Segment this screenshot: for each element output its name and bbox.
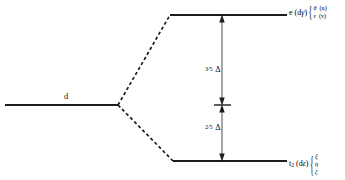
upper-component-alt-v: (v) <box>319 12 326 19</box>
crystal-field-splitting-diagram: d 3⁄5Δ 2⁄5Δ e (dγ) { θ(u) ε(v) t2 (dε) {… <box>0 0 345 180</box>
lower-level-component-row: ξ <box>315 152 321 160</box>
upper-component-symbol-epsilon: ε <box>313 12 315 19</box>
upper-level-brace: { <box>309 3 313 21</box>
lower-splitting-denominator: 5 <box>210 123 213 130</box>
lower-component-symbol-zeta: ζ <box>315 168 318 175</box>
connector-to-lower-level <box>118 105 173 161</box>
upper-level-term-group: e (dγ) { θ(u) ε(v) <box>289 4 327 20</box>
lower-component-symbol-xi: ξ <box>315 152 318 159</box>
upper-level-term-close: ) <box>304 8 307 17</box>
upper-level-component-row: ε(v) <box>313 12 326 20</box>
lower-splitting-delta-symbol: Δ <box>215 123 221 132</box>
lower-splitting-label: 2⁄5Δ <box>205 124 221 133</box>
upper-level-component-row: θ(u) <box>313 4 326 12</box>
upper-splitting-label: 3⁄5Δ <box>205 66 221 75</box>
upper-level-term-text: e (d <box>289 8 301 17</box>
upper-splitting-delta-symbol: Δ <box>215 65 221 74</box>
lower-level-component-row: ζ <box>315 168 321 176</box>
lower-level-term-symbol: t2 (dε) <box>289 159 309 168</box>
upper-component-symbol-theta: θ <box>313 4 316 11</box>
lower-level-term-group: t2 (dε) { ξ η ζ <box>289 152 321 176</box>
upper-splitting-denominator: 5 <box>210 65 213 72</box>
connector-to-upper-level <box>118 15 170 105</box>
parent-level-label: d <box>64 92 68 101</box>
lower-level-term-rest: (d <box>294 159 303 168</box>
upper-level-component-list: θ(u) ε(v) <box>313 4 326 20</box>
upper-level-term-symbol: e (dγ) <box>289 8 307 17</box>
lower-level-term-close: ) <box>306 159 309 168</box>
lower-level-brace: { <box>310 151 314 177</box>
lower-level-component-row: η <box>315 160 321 168</box>
lower-level-component-list: ξ η ζ <box>315 152 321 176</box>
upper-component-alt-u: (u) <box>319 4 326 11</box>
lower-component-symbol-eta: η <box>315 160 318 167</box>
